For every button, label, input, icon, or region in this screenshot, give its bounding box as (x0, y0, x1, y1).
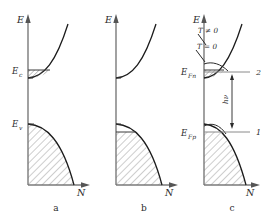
valence-band-edge-sub-a: v (19, 124, 23, 131)
quasi-fermi-hole-sub-c: Fp (187, 133, 196, 141)
panel-b: E N (88, 0, 180, 200)
panel-caption-b: b (134, 203, 154, 213)
conduction-electron-fill-c (204, 70, 224, 78)
band-diagram-figure: E N E c E v E N (0, 0, 265, 224)
photon-arrow-head-down-c (230, 123, 234, 129)
panel-c: E N E Fn E Fp T ≠ 0 T = 0 2 1 hν (176, 0, 265, 200)
quasi-fermi-electron-label-c: E (180, 67, 188, 77)
panel-caption-c: c (222, 203, 242, 213)
x-axis-label-c: N (245, 187, 255, 198)
quasi-fermi-electron-sub-c: Fn (187, 72, 196, 79)
panel-caption-a: a (46, 203, 66, 213)
photon-arrow-head-up-c (230, 74, 234, 80)
conduction-electron-fill-a (28, 70, 50, 78)
y-axis-label-b: E (104, 14, 112, 25)
x-axis-label-a: N (76, 187, 86, 198)
y-axis-label-c: E (192, 14, 200, 25)
y-axis-label-a: E (16, 14, 24, 25)
valence-band-fill-a (28, 124, 74, 185)
valence-band-fill-c (204, 132, 246, 185)
x-axis-label-b: N (164, 187, 174, 198)
panel-a: E N E c E v (0, 0, 92, 200)
temperature-nonzero-label-c: T ≠ 0 (198, 26, 218, 35)
conduction-band-edge-label-a: E (11, 66, 19, 76)
quasi-fermi-hole-label-c: E (180, 128, 188, 138)
valence-band-edge-label-a: E (11, 119, 19, 129)
valence-band-fill-b (116, 132, 162, 185)
temperature-zero-label-c: T = 0 (197, 42, 217, 51)
photon-energy-label-c: hν (221, 94, 230, 104)
lower-level-number-c: 1 (256, 128, 261, 137)
y-axis-arrowhead-b (113, 14, 118, 23)
conduction-band-curve-b (116, 24, 156, 78)
upper-level-number-c: 2 (255, 68, 261, 77)
conduction-band-edge-sub-a: c (19, 71, 23, 78)
y-axis-arrowhead-c (201, 14, 206, 23)
y-axis-arrowhead-a (25, 14, 30, 23)
